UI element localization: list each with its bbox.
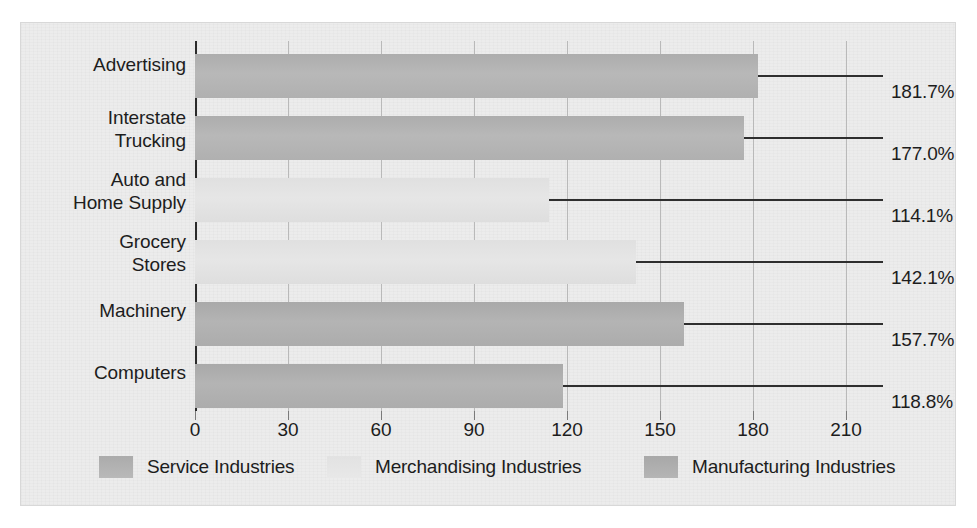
leader-line-computers: [563, 385, 883, 387]
value-label-computers: 118.8%: [891, 391, 953, 413]
leader-line-auto-and-home-supply: [549, 199, 883, 201]
bar-advertising[interactable]: [195, 54, 758, 98]
x-tick-label: 150: [644, 419, 676, 441]
leader-line-machinery: [684, 323, 883, 325]
gridline-210: [846, 41, 847, 411]
x-tick-label: 60: [370, 419, 391, 441]
legend-item-manufacturing-industries[interactable]: Manufacturing Industries: [644, 456, 895, 478]
legend-item-merchandising-industries[interactable]: Merchandising Industries: [327, 456, 581, 478]
category-label: Computers: [94, 361, 186, 384]
value-label-interstate-trucking: 177.0%: [891, 143, 954, 165]
legend-label: Merchandising Industries: [375, 456, 581, 478]
value-label-grocery-stores: 142.1%: [891, 267, 954, 289]
legend-label: Manufacturing Industries: [692, 456, 895, 478]
x-tick-label: 30: [277, 419, 298, 441]
category-axis-labels: Advertising Interstate Trucking Auto and…: [31, 41, 186, 411]
bar-computers[interactable]: [195, 364, 563, 408]
leader-line-grocery-stores: [636, 261, 883, 263]
leader-line-interstate-trucking: [744, 137, 883, 139]
value-label-advertising: 181.7%: [891, 81, 954, 103]
legend-item-service-industries[interactable]: Service Industries: [99, 456, 294, 478]
value-label-auto-and-home-supply: 114.1%: [891, 205, 953, 227]
chart-panel: Advertising Interstate Trucking Auto and…: [20, 22, 956, 506]
bar-interstate-trucking[interactable]: [195, 116, 744, 160]
plot-area: [195, 41, 885, 411]
bar-grocery-stores[interactable]: [195, 240, 636, 284]
value-label-machinery: 157.7%: [891, 329, 954, 351]
x-tick-label: 210: [830, 419, 862, 441]
legend-label: Service Industries: [147, 456, 294, 478]
category-label: Auto and Home Supply: [73, 168, 186, 214]
category-label: Machinery: [99, 299, 186, 322]
x-tick-label: 120: [551, 419, 583, 441]
x-tick-label: 90: [463, 419, 484, 441]
leader-line-advertising: [758, 75, 883, 77]
category-label: Interstate Trucking: [108, 106, 186, 152]
legend-swatch-icon: [327, 456, 361, 478]
category-label: Grocery Stores: [119, 230, 186, 276]
legend-swatch-icon: [644, 456, 678, 478]
x-tick-label: 0: [190, 419, 201, 441]
category-label: Advertising: [93, 53, 186, 76]
x-tick-label: 180: [737, 419, 769, 441]
legend-swatch-icon: [99, 456, 133, 478]
bar-machinery[interactable]: [195, 302, 684, 346]
bar-auto-and-home-supply[interactable]: [195, 178, 549, 222]
